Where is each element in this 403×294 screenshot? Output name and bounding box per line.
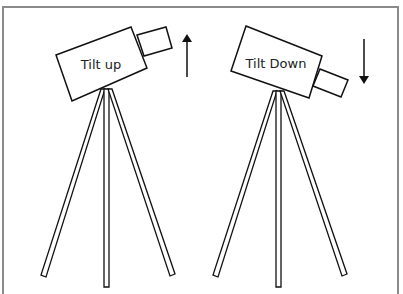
tripod-right <box>213 91 347 287</box>
tilt-down-label: Tilt Down <box>245 56 307 71</box>
camera-lens-tilt-down <box>313 69 348 97</box>
tilt-up-label: Tilt up <box>80 57 122 72</box>
camera-lens-tilt-up <box>137 27 172 56</box>
tripod-left <box>41 89 175 287</box>
tilt-up-panel: Tilt up <box>41 27 187 287</box>
tilt-down-panel: Tilt Down <box>213 26 364 287</box>
camera-tilt-diagram: Tilt up Tilt Down <box>0 0 403 294</box>
